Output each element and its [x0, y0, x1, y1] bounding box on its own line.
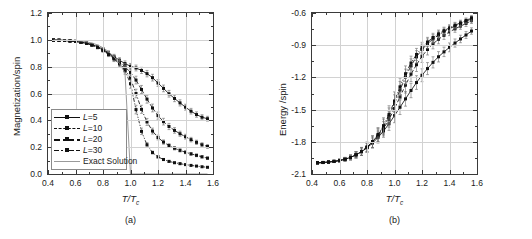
data-point — [173, 129, 176, 132]
axis-tick — [172, 172, 173, 174]
panel-a: 0.00.20.40.60.81.01.20.40.60.81.01.21.41… — [0, 0, 266, 239]
axis-tick — [144, 13, 145, 15]
legend-item[interactable]: Exact Solution — [54, 156, 123, 167]
y-tick-label: 0.2 — [0, 142, 42, 152]
data-point — [195, 113, 198, 116]
axis-tick — [76, 170, 77, 174]
data-point — [437, 32, 440, 35]
x-axis-title-main-b: T/T — [386, 193, 400, 204]
data-point — [459, 37, 462, 40]
axis-tick — [312, 174, 316, 175]
legend-item[interactable]: L=10 — [54, 123, 123, 134]
axis-tick — [473, 110, 477, 111]
data-point — [470, 30, 473, 33]
data-point — [146, 72, 149, 75]
axis-tick — [103, 170, 104, 174]
x-axis-title-b: T/Tc — [386, 193, 404, 206]
axis-tick — [473, 45, 477, 46]
axis-tick — [48, 26, 50, 27]
axis-tick — [475, 158, 477, 159]
axis-tick — [408, 13, 409, 15]
legend-label: L=20 — [83, 135, 102, 144]
axis-tick — [199, 13, 200, 15]
axis-tick — [144, 172, 145, 174]
data-point — [360, 150, 363, 153]
axis-tick — [473, 142, 477, 143]
legend-marker-sample — [65, 148, 69, 152]
axis-tick — [186, 170, 187, 174]
data-point — [206, 166, 209, 169]
axis-tick — [367, 170, 368, 174]
legend-line-sample — [54, 161, 80, 162]
figure-container: 0.00.20.40.60.81.01.20.40.60.81.01.21.41… — [0, 0, 532, 239]
y-tick-label: -0.9 — [266, 40, 306, 50]
axis-tick — [381, 172, 382, 174]
axis-tick — [209, 67, 213, 68]
axis-tick — [48, 107, 50, 108]
y-tick-label: 1.2 — [0, 8, 42, 18]
axis-tick — [89, 13, 90, 15]
axis-tick — [103, 13, 104, 17]
gridline-vertical — [422, 13, 423, 174]
x-tick-label: 1.0 — [125, 178, 137, 188]
data-point — [195, 154, 198, 157]
x-tick-label: 1.4 — [444, 178, 456, 188]
y-axis-title-a: Magnetization/spin — [11, 56, 22, 135]
panel-caption-b: (b) — [389, 215, 400, 225]
data-point — [195, 165, 198, 168]
data-point — [201, 165, 204, 168]
axis-tick — [353, 13, 354, 15]
data-point — [151, 130, 154, 133]
legend-a[interactable]: L=5L=10L=20L=30Exact Solution — [51, 109, 127, 170]
data-point — [179, 132, 182, 135]
axis-tick — [48, 94, 52, 95]
axis-tick — [48, 161, 50, 162]
x-tick-label: 0.4 — [306, 178, 318, 188]
axis-tick — [312, 142, 316, 143]
data-point — [107, 53, 110, 56]
axis-tick — [48, 40, 52, 41]
data-point — [162, 141, 165, 144]
axis-tick — [117, 13, 118, 15]
legend-item[interactable]: L=20 — [54, 134, 123, 145]
axis-tick — [475, 61, 477, 62]
legend-key-icon — [54, 113, 80, 122]
data-point — [168, 125, 171, 128]
axis-tick — [211, 26, 213, 27]
axis-tick — [172, 13, 173, 15]
data-point — [349, 156, 352, 159]
axis-tick — [395, 170, 396, 174]
legend-key-icon — [54, 135, 80, 144]
axis-tick — [436, 13, 437, 15]
axis-tick — [326, 13, 327, 15]
data-point — [168, 160, 171, 163]
data-point — [135, 108, 138, 111]
data-point — [399, 85, 402, 88]
data-point — [140, 130, 143, 133]
axis-tick — [395, 13, 396, 17]
axis-tick — [213, 170, 214, 174]
axis-tick — [209, 40, 213, 41]
axis-tick — [89, 172, 90, 174]
legend-label: Exact Solution — [83, 157, 137, 166]
axis-tick — [48, 80, 50, 81]
data-point — [201, 116, 204, 119]
axis-tick — [62, 13, 63, 15]
x-axis-title-a: T/Tc — [122, 193, 140, 206]
axis-tick — [312, 126, 314, 127]
legend-item[interactable]: L=30 — [54, 145, 123, 156]
data-point — [404, 72, 407, 75]
axis-tick — [475, 126, 477, 127]
axis-tick — [450, 170, 451, 174]
legend-marker-sample — [65, 137, 69, 141]
legend-item[interactable]: L=5 — [54, 112, 123, 123]
x-tick-label: 1.0 — [389, 178, 401, 188]
axis-tick — [340, 170, 341, 174]
axis-tick — [312, 13, 313, 17]
axis-tick — [48, 67, 52, 68]
axis-tick — [312, 77, 316, 78]
legend-label: L=10 — [83, 124, 102, 133]
legend-marker-sample — [65, 115, 69, 119]
axis-tick — [312, 158, 314, 159]
axis-tick — [48, 174, 52, 175]
